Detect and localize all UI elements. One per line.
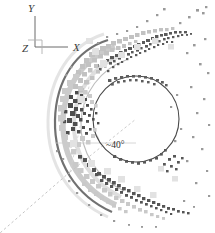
x-axis-label: X bbox=[72, 41, 81, 53]
figure-canvas: Y X Z ~40° bbox=[0, 0, 215, 233]
particle-scatter-group bbox=[56, 6, 210, 228]
ray-lower-left bbox=[0, 172, 70, 233]
angle-annotation-label: ~40° bbox=[106, 140, 125, 150]
axes-triad: Y X Z bbox=[22, 2, 81, 54]
outer-halo-arc bbox=[48, 34, 108, 217]
scatter-plot-svg: Y X Z ~40° bbox=[0, 0, 215, 233]
z-axis-label: Z bbox=[22, 42, 29, 54]
y-axis-label: Y bbox=[28, 2, 36, 14]
